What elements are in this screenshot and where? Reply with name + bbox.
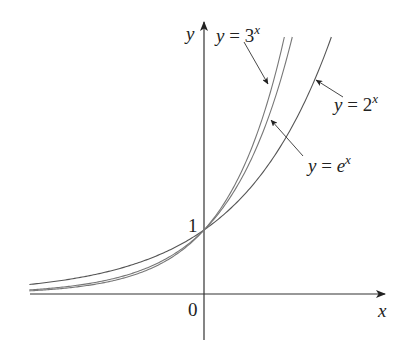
y-axis-label: y [184,23,195,44]
curve-y-e-x [29,37,292,290]
exponential-functions-plot: y x 0 1 y = 3x y = 2x y = ex [0,0,416,345]
origin-label: 0 [188,299,198,320]
curve-y-2-x [29,37,331,284]
pointer-ex [271,120,303,156]
label-3x: y = 3x [214,22,260,46]
curve-y-3-x [29,37,284,291]
curves-group [29,37,331,291]
x-axis-label: x [377,300,387,321]
pointer-3x [244,42,268,84]
y-intercept-label: 1 [188,215,198,236]
label-ex: y = ex [306,152,351,176]
label-2x: y = 2x [332,91,378,115]
